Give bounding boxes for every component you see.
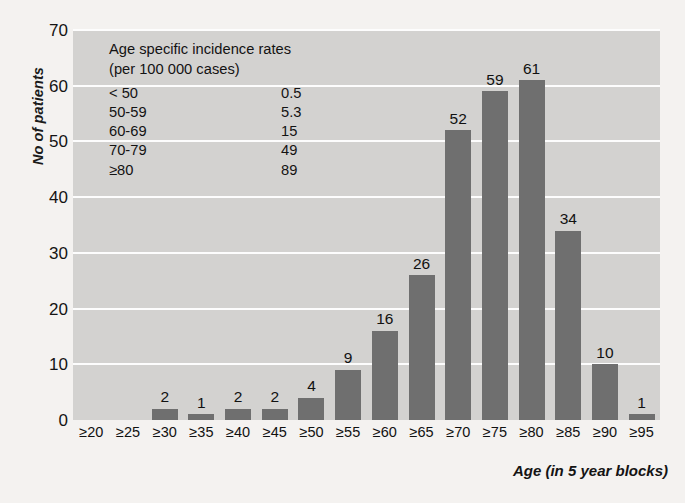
bar <box>188 414 214 420</box>
annotation-rate-value: 49 <box>281 141 351 160</box>
annotation-row: 70-7949 <box>109 141 409 160</box>
bar-value-label: 59 <box>486 72 503 88</box>
annotation-row: ≥8089 <box>109 161 409 180</box>
x-tick-label: ≥40 <box>226 424 250 441</box>
bar-value-label: 26 <box>413 256 430 272</box>
bar <box>482 91 508 420</box>
bar-slot <box>73 30 110 420</box>
y-tick-label: 50 <box>30 133 68 150</box>
annotation-age-range: 50-59 <box>109 103 281 122</box>
bar <box>372 331 398 420</box>
annotation-row: < 500.5 <box>109 84 409 103</box>
annotation-rate-value: 5.3 <box>281 103 351 122</box>
age-distribution-bar-chart: No of patients 010203040506070 212249162… <box>0 0 685 503</box>
bar-slot: 10 <box>587 30 624 420</box>
bar-slot: 52 <box>440 30 477 420</box>
bar <box>225 409 251 420</box>
bar-value-label: 34 <box>560 211 577 227</box>
x-axis-title: Age (in 5 year blocks) <box>513 462 668 479</box>
annotation-title-line-2: (per 100 000 cases) <box>109 60 409 80</box>
annotation-age-range: 70-79 <box>109 141 281 160</box>
annotation-age-range: 60-69 <box>109 122 281 141</box>
y-tick-label: 0 <box>30 412 68 429</box>
annotation-age-range: ≥80 <box>109 161 281 180</box>
annotation-title-line-1: Age specific incidence rates <box>109 40 409 60</box>
bar-value-label: 16 <box>376 311 393 327</box>
x-tick-label: ≥45 <box>263 424 287 441</box>
bar-slot: 61 <box>513 30 550 420</box>
bar <box>262 409 288 420</box>
y-tick-label: 70 <box>30 22 68 39</box>
bar <box>409 275 435 420</box>
y-tick-label: 30 <box>30 244 68 261</box>
annotation-rate-value: 89 <box>281 161 351 180</box>
bar-value-label: 2 <box>270 389 279 405</box>
bar <box>298 398 324 420</box>
x-tick-label: ≥60 <box>373 424 397 441</box>
bar <box>555 231 581 420</box>
bar-value-label: 1 <box>637 395 646 411</box>
annotation-rate-value: 15 <box>281 122 351 141</box>
bar <box>152 409 178 420</box>
plot-area: 212249162652596134101 Age specific incid… <box>73 30 660 420</box>
y-tick-label: 60 <box>30 77 68 94</box>
bar-value-label: 4 <box>307 378 316 394</box>
x-tick-label: ≥90 <box>593 424 617 441</box>
bar-value-label: 2 <box>234 389 243 405</box>
bar <box>629 414 655 420</box>
incidence-rates-annotation: Age specific incidence rates (per 100 00… <box>109 40 409 180</box>
bar-value-label: 61 <box>523 61 540 77</box>
bar <box>519 80 545 420</box>
y-tick-label: 40 <box>30 189 68 206</box>
bar <box>335 370 361 420</box>
bar-value-label: 52 <box>450 111 467 127</box>
bar-value-label: 10 <box>596 345 613 361</box>
x-tick-label: ≥55 <box>336 424 360 441</box>
bar-slot: 59 <box>477 30 514 420</box>
x-tick-label: ≥20 <box>79 424 103 441</box>
annotation-rows: < 500.550-595.360-691570-7949≥8089 <box>109 84 409 180</box>
annotation-row: 50-595.3 <box>109 103 409 122</box>
x-tick-label: ≥75 <box>483 424 507 441</box>
bar <box>445 130 471 420</box>
x-tick-label: ≥50 <box>299 424 323 441</box>
x-axis-tick-labels: ≥20≥25≥30≥35≥40≥45≥50≥55≥60≥65≥70≥75≥80≥… <box>73 424 660 450</box>
bar <box>592 364 618 420</box>
x-tick-label: ≥85 <box>556 424 580 441</box>
x-tick-label: ≥95 <box>630 424 654 441</box>
x-tick-label: ≥70 <box>446 424 470 441</box>
x-tick-label: ≥65 <box>409 424 433 441</box>
bar-value-label: 2 <box>160 389 169 405</box>
x-tick-label: ≥80 <box>520 424 544 441</box>
bar-value-label: 1 <box>197 395 206 411</box>
x-tick-label: ≥25 <box>116 424 140 441</box>
annotation-row: 60-6915 <box>109 122 409 141</box>
x-tick-label: ≥35 <box>189 424 213 441</box>
bar-value-label: 9 <box>344 350 353 366</box>
bar-slot: 34 <box>550 30 587 420</box>
y-tick-label: 20 <box>30 300 68 317</box>
y-tick-label: 10 <box>30 356 68 373</box>
x-tick-label: ≥30 <box>153 424 177 441</box>
annotation-age-range: < 50 <box>109 84 281 103</box>
y-axis-tick-labels: 010203040506070 <box>30 30 68 420</box>
bar-slot: 1 <box>623 30 660 420</box>
annotation-rate-value: 0.5 <box>281 84 351 103</box>
